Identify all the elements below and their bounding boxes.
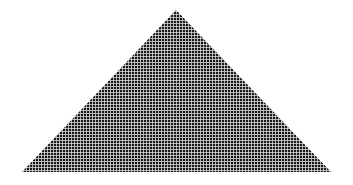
grid-triangle-figure	[0, 0, 353, 185]
